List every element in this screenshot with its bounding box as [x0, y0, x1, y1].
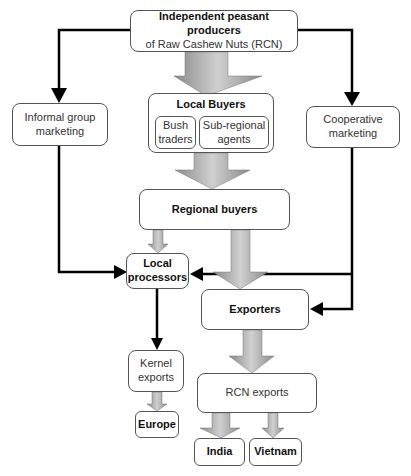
arrowhead-icon	[344, 92, 360, 106]
node-india: India	[194, 438, 245, 466]
arrowhead-icon	[310, 302, 323, 316]
arrowhead-icon	[151, 338, 163, 350]
europe-label: Europe	[138, 418, 176, 432]
india-label: India	[207, 445, 233, 459]
regional-buyers-label: Regional buyers	[172, 203, 258, 217]
kernel-exports-label: Kernel exports	[135, 357, 177, 385]
line-informal-processors	[59, 146, 118, 272]
arrowhead-icon	[190, 267, 203, 281]
arrowhead-icon	[51, 88, 67, 103]
block-arrow-regional-processors	[148, 230, 168, 253]
node-regional-buyers: Regional buyers	[139, 189, 290, 230]
node-local-processors: Local processors	[126, 253, 189, 289]
rcn-exports-label: RCN exports	[226, 386, 289, 400]
block-arrow-rcn-vietnam	[262, 413, 284, 438]
cooperative-label: Cooperative marketing	[315, 113, 391, 141]
subregional-agents-label: Sub-regional agents	[200, 119, 268, 145]
exporters-label: Exporters	[229, 303, 280, 317]
node-bush-traders: Bush traders	[155, 116, 196, 149]
block-arrow-localbuyers-regional	[175, 153, 250, 189]
node-producers: Independent peasant producers of Raw Cas…	[130, 10, 298, 52]
bush-traders-label: Bush traders	[156, 119, 195, 145]
line-producers-cooperative	[298, 30, 352, 95]
line-producers-informal	[59, 30, 130, 90]
node-cooperative-marketing: Cooperative marketing	[306, 106, 400, 148]
block-arrow-producers-localbuyers	[174, 52, 262, 96]
vietnam-label: Vietnam	[254, 445, 297, 459]
block-arrow-rcn-india	[200, 413, 240, 438]
block-arrow-kernel-europe	[147, 392, 167, 411]
block-arrow-exporters-rcn	[229, 330, 274, 373]
producers-line1: Independent peasant producers	[131, 10, 297, 38]
node-subregional-agents: Sub-regional agents	[199, 116, 269, 149]
line-cooperative-exporters	[320, 148, 352, 309]
node-informal-group-marketing: Informal group marketing	[12, 103, 108, 146]
node-vietnam: Vietnam	[249, 438, 302, 466]
node-kernel-exports: Kernel exports	[128, 350, 184, 392]
producers-line2: of Raw Cashew Nuts (RCN)	[146, 38, 283, 52]
node-rcn-exports: RCN exports	[197, 373, 317, 413]
local-buyers-label: Local Buyers	[176, 98, 245, 112]
informal-label: Informal group marketing	[21, 111, 99, 139]
node-exporters: Exporters	[201, 289, 309, 330]
node-europe: Europe	[135, 411, 179, 438]
local-processors-label: Local processors	[128, 257, 187, 285]
block-arrow-regional-exporters	[213, 230, 268, 289]
